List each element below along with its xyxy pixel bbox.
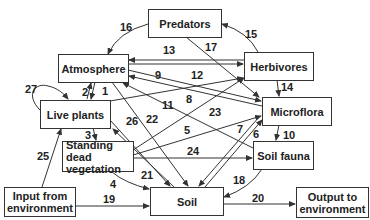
edge-label-20: 20 [252, 193, 264, 204]
node-atmosphere: Atmosphere [58, 54, 129, 83]
node-label: Microflora [270, 106, 323, 118]
node-label: Predators [159, 18, 210, 30]
node-microflora: Microflora [262, 97, 332, 126]
edge-label-9: 9 [155, 70, 161, 81]
edge-label-22: 22 [146, 114, 158, 125]
node-label: Live plants [47, 109, 104, 121]
edge-label-7: 7 [237, 124, 243, 135]
edge-label-21: 21 [141, 170, 153, 181]
edge-label-12: 12 [191, 70, 203, 81]
node-soil-fauna: Soil fauna [253, 141, 314, 170]
node-label: Standing dead vegetation [66, 139, 133, 175]
edge-label-24: 24 [187, 146, 199, 157]
edge-label-6: 6 [253, 129, 259, 140]
edge-label-4: 4 [110, 179, 116, 190]
edge-label-2: 2 [82, 87, 88, 98]
edge-label-16: 16 [120, 22, 132, 33]
node-label: Soil fauna [257, 150, 310, 162]
edge-label-15: 15 [245, 29, 257, 40]
node-input-from-environment: Input from environment [4, 187, 76, 217]
edge-label-17: 17 [205, 42, 217, 53]
node-label: Herbivores [250, 61, 307, 73]
node-predators: Predators [148, 9, 222, 38]
edge-label-26: 26 [126, 116, 138, 127]
edge-label-25: 25 [37, 151, 49, 162]
edge-label-11: 11 [162, 100, 174, 111]
edge-label-23: 23 [209, 107, 221, 118]
node-label: Atmosphere [61, 63, 125, 75]
node-soil: Soil [150, 187, 224, 216]
edge-label-13: 13 [163, 45, 175, 56]
node-label: Soil [177, 196, 197, 208]
edge-label-8: 8 [186, 94, 192, 105]
edge-label-19: 19 [103, 194, 115, 205]
edge-label-1: 1 [102, 86, 108, 97]
edge-label-27: 27 [25, 84, 37, 95]
edge-label-14: 14 [281, 82, 293, 93]
node-output-to-environment: Output to environment [296, 187, 369, 218]
edge-label-3: 3 [85, 130, 91, 141]
node-live-plants: Live plants [40, 100, 111, 129]
node-label: Input from environment [5, 190, 75, 214]
node-standing-dead-vegetation: Standing dead vegetation [62, 141, 134, 172]
node-label: Output to environment [297, 191, 368, 215]
edge-label-5: 5 [184, 125, 190, 136]
edge-label-18: 18 [233, 175, 245, 186]
node-herbivores: Herbivores [244, 52, 314, 81]
edge-label-10: 10 [283, 130, 295, 141]
